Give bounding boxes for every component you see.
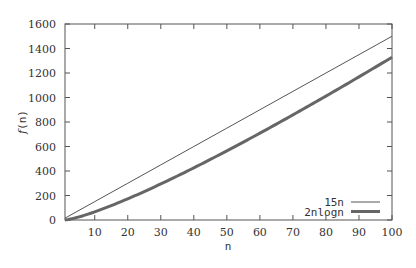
y-tick-label: 0 xyxy=(49,214,56,227)
legend-label: 2nlogn xyxy=(304,206,344,219)
chart: 02004006008001000120014001600 1020304050… xyxy=(0,0,416,268)
x-tick-label: 60 xyxy=(253,226,267,239)
x-tick-label: 50 xyxy=(220,226,234,239)
y-tick-label: 800 xyxy=(35,116,56,129)
y-tick-label: 1600 xyxy=(28,18,56,31)
legend: 15n2nlogn xyxy=(304,196,380,219)
x-tick-label: 90 xyxy=(352,226,366,239)
x-tick-label: 80 xyxy=(319,226,333,239)
x-tick-label: 40 xyxy=(187,226,201,239)
y-axis-label-rest: (n) xyxy=(16,110,29,130)
x-tick-label: 20 xyxy=(121,226,135,239)
x-tick-label: 10 xyxy=(88,226,102,239)
y-tick-label: 1000 xyxy=(28,92,56,105)
series-lines xyxy=(65,36,392,220)
series-line-15n xyxy=(65,36,392,218)
y-tick-label: 1400 xyxy=(28,43,56,56)
y-tick-label: 600 xyxy=(35,141,56,154)
y-tick-label: 400 xyxy=(35,165,56,178)
y-tick-label: 200 xyxy=(35,190,56,203)
x-tick-label: 70 xyxy=(286,226,300,239)
y-axis-label: f(n) xyxy=(16,110,29,135)
y-tick-label: 1200 xyxy=(28,67,56,80)
x-axis-label: n xyxy=(225,240,232,253)
x-tick-label: 100 xyxy=(382,226,403,239)
x-tick-label: 30 xyxy=(154,226,168,239)
